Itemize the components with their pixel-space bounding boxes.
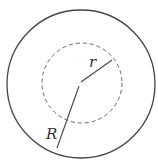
inner-radius-label: r xyxy=(89,53,97,71)
outer-radius-label: R xyxy=(45,125,57,143)
inner-radius-line xyxy=(81,60,112,82)
outer-circle xyxy=(7,10,155,158)
concentric-circles-diagram: r R xyxy=(0,0,158,162)
inner-dashed-circle xyxy=(42,43,122,123)
